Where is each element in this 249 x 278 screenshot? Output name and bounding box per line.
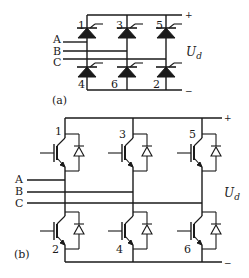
- device-label: 4: [116, 243, 123, 256]
- igbt-icon: [108, 130, 152, 175]
- minus-label: −: [224, 258, 232, 268]
- device-label: 6: [111, 78, 118, 91]
- output-voltage-label: Ud: [186, 45, 202, 61]
- phase-c-label: C: [15, 197, 23, 210]
- device-label: 3: [116, 19, 123, 32]
- plus-label: +: [185, 10, 193, 20]
- device-label: 3: [119, 128, 126, 141]
- thyristor-icon: [156, 63, 182, 77]
- device-label: 4: [78, 78, 85, 91]
- device-label: 6: [184, 243, 191, 256]
- circuit-diagrams: 1 3 5 4 6 2 A B C + − Ud (a): [0, 0, 249, 278]
- figure-a-caption: (a): [52, 94, 67, 107]
- plus-label: +: [224, 113, 232, 123]
- igbt-icon: [40, 130, 84, 175]
- minus-label: −: [185, 86, 193, 96]
- device-label: 2: [153, 78, 160, 91]
- figure-b-caption: (b): [14, 248, 30, 261]
- device-label: 5: [156, 19, 163, 32]
- device-label: 1: [55, 125, 62, 138]
- device-label: 5: [189, 128, 196, 141]
- device-label: 2: [52, 243, 59, 256]
- thyristor-icon: [77, 63, 103, 77]
- device-label: 1: [78, 19, 85, 32]
- igbt-icon: [108, 208, 152, 253]
- thyristor-icon: [117, 63, 143, 77]
- igbt-icon: [177, 130, 221, 175]
- figure-b-igbt-bridge: 1 3 5 2 4 6 A B C + − Ud (b): [14, 113, 240, 268]
- phase-c-label: C: [53, 56, 61, 69]
- output-voltage-label: Ud: [224, 186, 240, 202]
- figure-a-thyristor-bridge: 1 3 5 4 6 2 A B C + − Ud (a): [52, 10, 202, 107]
- igbt-icon: [40, 208, 84, 253]
